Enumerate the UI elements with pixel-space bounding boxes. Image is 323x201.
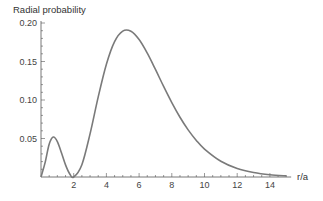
x-axis-title: r/a <box>297 171 309 182</box>
y-tick-label: 0.20 <box>19 18 37 28</box>
x-tick-label: 12 <box>232 180 242 190</box>
x-tick-label: 6 <box>137 180 142 190</box>
axes <box>41 21 291 177</box>
x-tick-label: 10 <box>199 180 209 190</box>
radial-probability-chart: Radial probability r/a 24681012140.050.1… <box>0 0 323 201</box>
x-tick-label: 2 <box>71 180 76 190</box>
x-tick-label: 14 <box>265 180 275 190</box>
probability-curve <box>41 30 286 177</box>
y-axis-title: Radial probability <box>13 4 86 15</box>
y-tick-label: 0.10 <box>19 95 37 105</box>
x-tick-label: 4 <box>104 180 109 190</box>
y-tick-label: 0.15 <box>19 57 37 67</box>
ticks: 24681012140.050.100.150.20 <box>19 18 286 190</box>
x-tick-label: 8 <box>169 180 174 190</box>
y-tick-label: 0.05 <box>19 134 37 144</box>
